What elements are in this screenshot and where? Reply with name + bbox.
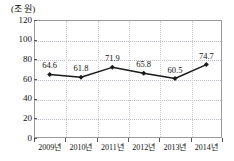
x-tick-label: 2013년	[159, 143, 190, 152]
y-axis: 020406080100120	[0, 0, 32, 161]
x-tick-mark	[159, 138, 160, 142]
x-tick-mark	[128, 138, 129, 142]
x-tick-mark	[65, 138, 66, 142]
x-tick-mark	[222, 138, 223, 142]
data-point-label: 71.9	[96, 54, 128, 63]
data-point-label: 60.5	[159, 66, 191, 75]
x-tick-mark	[97, 138, 98, 142]
x-tick-mark	[191, 138, 192, 142]
y-tick-label: 40	[6, 94, 32, 103]
y-tick-mark	[34, 20, 37, 21]
x-tick-label: 2009년	[34, 143, 65, 152]
y-tick-mark	[34, 118, 37, 119]
data-point-marker	[141, 71, 146, 76]
series-line	[34, 20, 222, 138]
y-tick-label: 80	[6, 55, 32, 64]
y-tick-label: 100	[6, 35, 32, 44]
data-point-marker	[47, 72, 52, 77]
y-tick-label: 60	[6, 75, 32, 84]
data-point-marker	[79, 75, 84, 80]
data-point-marker	[204, 62, 209, 67]
data-point-label: 61.8	[65, 64, 97, 73]
data-point-label: 65.8	[128, 60, 160, 69]
y-tick-label: 20	[6, 114, 32, 123]
x-tick-label: 2012년	[128, 143, 159, 152]
data-point-marker	[110, 65, 115, 70]
x-tick-label: 2014년	[191, 143, 222, 152]
line-chart: (조 원) 020406080100120 2009년2010년2011년201…	[0, 0, 234, 161]
y-tick-label: 120	[6, 16, 32, 25]
y-tick-mark	[34, 79, 37, 80]
y-tick-label: 0	[6, 134, 32, 143]
y-tick-mark	[34, 138, 37, 139]
y-tick-mark	[34, 99, 37, 100]
data-point-label: 64.6	[34, 61, 66, 70]
y-tick-mark	[34, 40, 37, 41]
data-point-label: 74.7	[190, 52, 222, 61]
x-tick-label: 2010년	[65, 143, 96, 152]
x-tick-label: 2011년	[97, 143, 128, 152]
y-tick-mark	[34, 59, 37, 60]
data-point-marker	[173, 76, 178, 81]
